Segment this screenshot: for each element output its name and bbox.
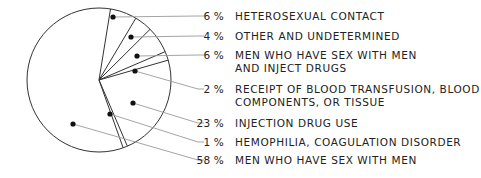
slice-percent: 4 % bbox=[203, 30, 224, 42]
slice-percent: 58 % bbox=[197, 154, 224, 166]
slice-label: OTHER AND UNDETERMINED bbox=[235, 30, 400, 42]
slice-label: HEMOPHILIA, COAGULATION DISORDER bbox=[235, 136, 461, 148]
slice-percent: 1 % bbox=[203, 136, 224, 148]
slice-marker-dot bbox=[107, 111, 112, 116]
slice-marker-dot bbox=[70, 121, 75, 126]
slice-marker-dot bbox=[132, 68, 137, 73]
slice-marker-dot bbox=[134, 53, 139, 58]
pie-chart: 6 %HETEROSEXUAL CONTACT4 %OTHER AND UNDE… bbox=[0, 0, 481, 178]
pie-slices bbox=[27, 8, 171, 152]
slice-label: COMPONENTS, OR TISSUE bbox=[235, 96, 385, 108]
slice-percent: 2 % bbox=[203, 83, 224, 95]
slice-percent: 6 % bbox=[203, 10, 224, 22]
slice-label: RECEIPT OF BLOOD TRANSFUSION, BLOOD bbox=[235, 83, 480, 95]
slice-label: AND INJECT DRUGS bbox=[235, 62, 347, 74]
slice-label: HETEROSEXUAL CONTACT bbox=[235, 10, 384, 22]
slice-label: MEN WHO HAVE SEX WITH MEN bbox=[235, 49, 417, 61]
legend-labels: 6 %HETEROSEXUAL CONTACT4 %OTHER AND UNDE… bbox=[197, 10, 480, 166]
slice-marker-dot bbox=[110, 14, 115, 19]
slice-label: INJECTION DRUG USE bbox=[235, 117, 358, 129]
slice-label: MEN WHO HAVE SEX WITH MEN bbox=[235, 154, 417, 166]
slice-percent: 23 % bbox=[197, 117, 224, 129]
slice-percent: 6 % bbox=[203, 49, 224, 61]
slice-marker-dot bbox=[130, 100, 135, 105]
slice-marker-dot bbox=[128, 34, 133, 39]
